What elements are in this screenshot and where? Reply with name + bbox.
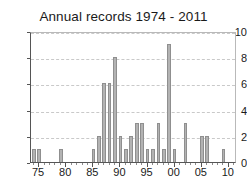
bar-1992 <box>129 136 133 162</box>
bar-1994 <box>140 123 144 162</box>
x-minor-tick-2001 <box>179 163 180 165</box>
bar-1996 <box>151 149 155 162</box>
x-minor-tick-1988 <box>109 163 110 165</box>
bar-1985 <box>92 149 96 162</box>
x-minor-tick-1991 <box>125 163 126 165</box>
x-minor-tick-2006 <box>206 163 207 165</box>
bar-2009 <box>222 149 226 162</box>
x-minor-tick-1978 <box>54 163 55 165</box>
bar-1997 <box>157 123 161 162</box>
bar-1987 <box>102 83 106 162</box>
bar-1998 <box>162 149 166 162</box>
bar-1991 <box>124 149 128 162</box>
x-minor-tick-1982 <box>76 163 77 165</box>
x-minor-tick-2008 <box>217 163 218 165</box>
x-minor-tick-1983 <box>82 163 83 165</box>
bar-1990 <box>119 136 123 162</box>
x-tick-label-10: 10 <box>216 167 240 178</box>
x-tick-label-85: 85 <box>80 167 104 178</box>
x-minor-tick-2002 <box>185 163 186 165</box>
bar-1975 <box>37 149 41 162</box>
x-tick-label-75: 75 <box>26 167 50 178</box>
x-minor-tick-1979 <box>60 163 61 165</box>
x-minor-tick-1984 <box>87 163 88 165</box>
x-minor-tick-2007 <box>212 163 213 165</box>
x-minor-tick-2004 <box>195 163 196 165</box>
plot-area <box>30 32 236 163</box>
bar-1988 <box>108 83 112 162</box>
bar-series <box>31 33 235 162</box>
x-minor-tick-1993 <box>136 163 137 165</box>
x-tick-label-95: 95 <box>135 167 159 178</box>
bar-1986 <box>97 136 101 162</box>
bar-2000 <box>173 149 177 162</box>
bar-1974 <box>32 149 36 162</box>
x-minor-tick-1976 <box>44 163 45 165</box>
bar-2002 <box>184 123 188 162</box>
x-minor-tick-2011 <box>233 163 234 165</box>
x-tick-label-90: 90 <box>107 167 131 178</box>
x-minor-tick-1992 <box>130 163 131 165</box>
chart-title: Annual records 1974 - 2011 <box>0 9 247 24</box>
x-minor-tick-1986 <box>98 163 99 165</box>
x-minor-tick-1974 <box>33 163 34 165</box>
bar-1979 <box>59 149 63 162</box>
bar-2006 <box>205 136 209 162</box>
bar-1999 <box>167 44 171 162</box>
x-minor-tick-1999 <box>168 163 169 165</box>
x-minor-tick-1981 <box>71 163 72 165</box>
x-minor-tick-1989 <box>114 163 115 165</box>
x-minor-tick-1996 <box>152 163 153 165</box>
x-minor-tick-1998 <box>163 163 164 165</box>
x-minor-tick-1987 <box>103 163 104 165</box>
x-tick-label-80: 80 <box>53 167 77 178</box>
x-minor-tick-1994 <box>141 163 142 165</box>
y-tick-mark-0 <box>27 163 30 164</box>
x-minor-tick-2009 <box>222 163 223 165</box>
x-minor-tick-1997 <box>157 163 158 165</box>
x-minor-tick-2003 <box>190 163 191 165</box>
annual-records-bar-chart: Annual records 1974 - 2011 0246810 75808… <box>0 0 247 190</box>
x-tick-label-00: 00 <box>162 167 186 178</box>
bar-1993 <box>135 123 139 162</box>
bar-2005 <box>200 136 204 162</box>
x-minor-tick-1977 <box>49 163 50 165</box>
bar-1995 <box>146 149 150 162</box>
x-tick-label-05: 05 <box>189 167 213 178</box>
bar-1989 <box>113 57 117 162</box>
